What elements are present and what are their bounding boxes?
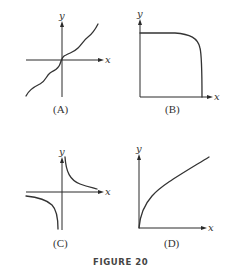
x-axis-arrow-icon [98, 190, 104, 194]
panel-label-c: (C) [53, 237, 68, 250]
x-label: x [105, 186, 111, 197]
panel-label-b: (B) [165, 103, 180, 116]
panel-d: y x (D) [135, 143, 214, 250]
panel-a: y x (A) [26, 10, 111, 116]
figure-canvas: y x (A) y x (B) y x (C) y x (D) [0, 0, 233, 275]
y-label: y [58, 10, 65, 21]
x-label: x [208, 222, 214, 233]
figure-caption: FIGURE 20 [93, 257, 148, 267]
x-label: x [214, 91, 220, 102]
y-axis-arrow-icon [60, 157, 64, 163]
curve-d [139, 157, 209, 228]
x-label: x [105, 54, 111, 65]
curve-b [140, 33, 202, 97]
curve-c-left-branch [26, 196, 58, 229]
y-label: y [58, 146, 65, 157]
y-axis-arrow-icon [137, 154, 141, 160]
curve-c-right-branch [65, 157, 97, 189]
x-axis-arrow-icon [98, 58, 104, 62]
x-axis-arrow-icon [207, 95, 213, 99]
panel-label-a: (A) [53, 103, 69, 116]
panel-c: y x (C) [26, 146, 111, 250]
y-axis-arrow-icon [138, 19, 142, 25]
panel-label-d: (D) [164, 237, 180, 250]
y-label: y [135, 143, 142, 154]
panel-b: y x (B) [136, 8, 220, 116]
y-label: y [136, 8, 143, 19]
x-axis-arrow-icon [201, 226, 207, 230]
y-axis-arrow-icon [60, 21, 64, 27]
